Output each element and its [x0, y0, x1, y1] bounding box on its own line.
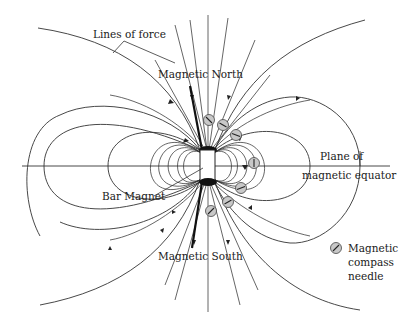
compass-needle-3: [231, 130, 242, 141]
magnetic-north-label: Magnetic North: [158, 68, 243, 80]
south-axis-line: [192, 182, 202, 248]
lines-of-force-label: Lines of force: [93, 28, 166, 40]
compass-needle-2: [218, 120, 229, 131]
legend-line2: compass: [348, 256, 394, 268]
legend-line3: needle: [348, 270, 383, 282]
compass-needle-4: [249, 158, 260, 169]
bar-magnet-label: Bar Magnet: [102, 190, 166, 202]
lines-of-force-leader: [113, 41, 175, 63]
compass-needle-1: [204, 115, 215, 126]
legend-compass-icon: [331, 243, 342, 254]
bar-magnet: [199, 146, 217, 186]
legend-line1: Magnetic: [348, 242, 398, 254]
compass-needle-6: [223, 197, 234, 208]
south-pole: [199, 178, 217, 186]
plane-label-line2: magnetic equator: [302, 169, 397, 181]
compass-needle-5: [236, 183, 247, 194]
magnetic-south-label: Magnetic South: [158, 250, 243, 262]
legend: Magnetic compass needle: [331, 242, 399, 282]
magnetic-field-diagram: Lines of force Magnetic North Bar Magnet…: [0, 0, 405, 328]
compass-needle-7: [206, 206, 217, 217]
plane-label-line1: Plane of: [320, 150, 364, 162]
